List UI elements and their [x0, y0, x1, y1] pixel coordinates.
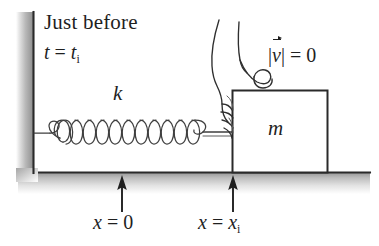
origin-value: 0: [123, 211, 133, 233]
caption-just-before: Just before: [44, 12, 138, 33]
mass-label: m: [268, 118, 283, 139]
time-subscript: i: [76, 52, 79, 66]
time-equals: =: [50, 41, 71, 63]
wall: [16, 12, 38, 182]
time-label: t = ti: [44, 42, 80, 65]
initial-position-label: x = xi: [198, 212, 240, 235]
velocity-equals: =: [285, 44, 306, 66]
spring-constant-label: k: [113, 83, 122, 104]
origin-variable: x: [93, 211, 102, 233]
spring: [34, 120, 233, 144]
velocity-value: 0: [306, 44, 316, 66]
velocity-label: |v| = 0: [268, 45, 316, 65]
origin-equals: =: [102, 211, 123, 233]
initial-value: x: [228, 211, 237, 233]
physics-diagram-spring-block: Just before t = ti k m |v| = 0 x = 0 x =…: [0, 0, 379, 246]
vector-arrowhead-icon: [278, 36, 282, 40]
origin-label: x = 0: [93, 212, 133, 232]
ground: [18, 173, 370, 195]
velocity-variable: v: [272, 44, 281, 66]
diagram-canvas: [0, 0, 379, 246]
initial-subscript: i: [237, 222, 240, 236]
velocity-vector: v: [272, 45, 281, 65]
initial-variable: x: [198, 211, 207, 233]
initial-equals: =: [207, 211, 228, 233]
